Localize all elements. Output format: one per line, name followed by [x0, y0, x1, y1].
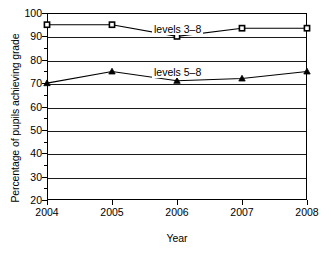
- x-axis-tick-labels: 20042005200620072008: [0, 206, 331, 220]
- series-label-levels-3-8: levels 3–8: [152, 23, 203, 35]
- x-axis-title: Year: [47, 232, 307, 244]
- x-tick-label: 2008: [284, 206, 330, 218]
- y-tick-label: 70: [18, 78, 42, 88]
- x-tick-label: 2006: [154, 206, 200, 218]
- y-tick-label: 90: [18, 31, 42, 41]
- x-tick-mark: [112, 200, 113, 205]
- y-tick-label: 60: [18, 102, 42, 112]
- data-point-square: [304, 26, 309, 31]
- data-series-layer: [47, 13, 307, 200]
- y-tick-label: 40: [18, 148, 42, 158]
- y-tick-label: 50: [18, 125, 42, 135]
- series-label-levels-5-8: levels 5–8: [152, 66, 203, 78]
- data-point-square: [239, 26, 244, 31]
- y-tick-label: 30: [18, 172, 42, 182]
- data-point-square: [44, 22, 49, 27]
- x-tick-label: 2004: [24, 206, 70, 218]
- x-tick-mark: [242, 200, 243, 205]
- y-tick-label: 20: [18, 195, 42, 205]
- data-point-square: [109, 22, 114, 27]
- data-point-triangle: [304, 68, 310, 74]
- x-tick-mark: [307, 200, 308, 205]
- y-tick-label: 80: [18, 55, 42, 65]
- line-chart: Percentage of pupils achieving grade 100…: [0, 0, 331, 262]
- x-tick-mark: [177, 200, 178, 205]
- data-point-triangle: [109, 68, 115, 74]
- y-tick-label: 100: [18, 8, 42, 18]
- x-tick-label: 2005: [89, 206, 135, 218]
- y-axis-tick-labels: 1009080706050403020: [18, 13, 42, 200]
- x-tick-label: 2007: [219, 206, 265, 218]
- x-tick-mark: [47, 200, 48, 205]
